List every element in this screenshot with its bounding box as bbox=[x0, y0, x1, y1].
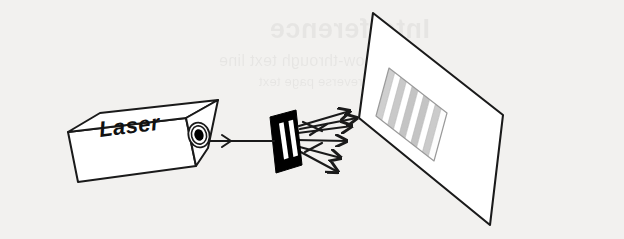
diffracted-ray bbox=[296, 140, 347, 141]
diffracted-rays bbox=[296, 111, 357, 172]
optics-diagram: Laser bbox=[0, 0, 624, 239]
viewing-screen bbox=[359, 13, 503, 225]
figure-container: Interference show-through text line fain… bbox=[0, 0, 624, 239]
laser-device: Laser bbox=[68, 100, 218, 182]
diffracted-ray bbox=[297, 150, 338, 172]
